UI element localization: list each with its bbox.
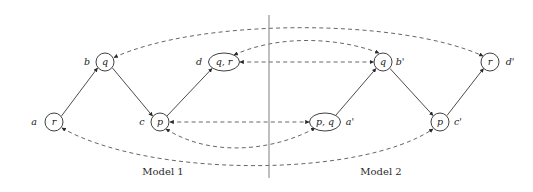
dashed-link-d-bp-arc-upper (234, 40, 379, 55)
node-d-prime[interactable]: r d' (481, 53, 514, 71)
solid-edge-a-b (62, 68, 98, 116)
node-a-prime-valuation: p, q (316, 116, 334, 127)
figure-canvas: r a q b p c q, r d p, q (0, 0, 533, 192)
solid-edge-b-c (113, 68, 153, 116)
node-d[interactable]: q, r d (196, 53, 240, 71)
dashed-link-a-cp-arc-bottom (62, 128, 433, 166)
node-c-valuation: p (157, 116, 163, 127)
node-d-label: d (196, 56, 202, 67)
node-c-prime-label: c' (454, 116, 462, 127)
solid-edge-cp-dp (447, 69, 484, 116)
node-b[interactable]: q b (84, 53, 114, 71)
caption-model-2: Model 2 (360, 166, 401, 177)
kripke-model-bisimulation-diagram: r a q b p c q, r d p, q (0, 0, 533, 192)
node-a-prime-label: a' (346, 116, 354, 127)
node-b-prime[interactable]: q b' (374, 53, 404, 71)
dashed-link-b-dp-arc-top (114, 28, 483, 58)
solid-edge-bp-cp (390, 69, 433, 116)
dashed-link-group (62, 28, 483, 166)
caption-model-1: Model 1 (142, 166, 183, 177)
node-b-prime-label: b' (396, 56, 405, 67)
node-d-prime-label: d' (506, 56, 515, 67)
model1-node-group: r a q b p c q, r d (31, 53, 239, 131)
solid-edge-ap-bp (336, 69, 376, 116)
node-a-label: a (31, 116, 37, 127)
node-b-label: b (84, 56, 90, 67)
node-a[interactable]: r a (31, 113, 63, 131)
node-b-valuation: q (102, 56, 108, 67)
node-c-prime-valuation: p (437, 116, 443, 127)
node-c[interactable]: p c (139, 113, 169, 131)
node-c-label: c (139, 116, 145, 127)
dashed-link-c-ap-arc-lower (166, 128, 315, 148)
node-d-valuation: q, r (216, 56, 234, 67)
solid-edge-group (62, 68, 484, 116)
node-b-prime-valuation: q (380, 56, 386, 67)
node-c-prime[interactable]: p c' (431, 113, 462, 131)
solid-edge-c-d (167, 69, 212, 117)
node-a-prime[interactable]: p, q a' (310, 113, 355, 131)
